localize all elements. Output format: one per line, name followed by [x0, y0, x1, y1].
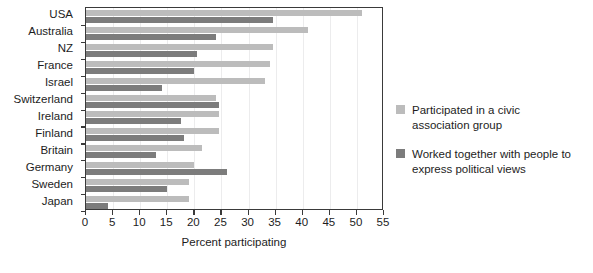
- legend-entry: Worked together with people to express p…: [396, 147, 586, 177]
- legend-label: Worked together with people to express p…: [412, 147, 580, 177]
- legend-swatch-icon: [396, 149, 405, 158]
- bar: [86, 68, 194, 74]
- legend-label: Participated in a civic association grou…: [412, 103, 580, 133]
- gridline: [276, 8, 277, 209]
- x-axis-tick: [302, 210, 303, 215]
- gridline: [357, 8, 358, 209]
- x-axis-tick: [329, 210, 330, 215]
- gridline: [303, 8, 304, 209]
- x-axis-tick-label: 10: [133, 216, 146, 228]
- legend-swatch-icon: [396, 105, 405, 114]
- bar: [86, 85, 162, 91]
- x-axis-tick: [220, 210, 221, 215]
- bar: [86, 203, 108, 209]
- x-axis-tick-label: 5: [109, 216, 115, 228]
- y-axis-label-nz: NZ: [58, 43, 73, 55]
- x-axis-tick-label: 15: [160, 216, 173, 228]
- x-axis-tick-label: 20: [187, 216, 200, 228]
- x-axis-tick-label: 35: [268, 216, 281, 228]
- x-axis-tick-label: 45: [322, 216, 335, 228]
- bar: [86, 135, 184, 141]
- y-axis-label-switzerland: Switzerland: [14, 94, 73, 106]
- y-axis-label-britain: Britain: [40, 145, 73, 157]
- gridline: [221, 8, 222, 209]
- x-axis-tick: [248, 210, 249, 215]
- bar: [86, 27, 308, 33]
- bar: [86, 118, 181, 124]
- bar: [86, 17, 273, 23]
- bar: [86, 61, 270, 67]
- y-axis-label-japan: Japan: [42, 196, 73, 208]
- plot-area: [85, 7, 383, 210]
- x-axis-title: Percent participating: [85, 236, 383, 248]
- y-axis-label-finland: Finland: [35, 128, 73, 140]
- x-axis-tick: [356, 210, 357, 215]
- x-axis-tick-label: 55: [377, 216, 390, 228]
- x-axis-tick: [112, 210, 113, 215]
- y-axis-category-labels: USAAustraliaNZFranceIsraelSwitzerlandIre…: [0, 7, 78, 210]
- bar: [86, 95, 216, 101]
- bar: [86, 128, 219, 134]
- x-axis-tick-label: 50: [350, 216, 363, 228]
- bar: [86, 179, 189, 185]
- legend-entry: Participated in a civic association grou…: [396, 103, 586, 133]
- y-axis-label-israel: Israel: [45, 77, 73, 89]
- y-axis-label-france: France: [37, 60, 73, 72]
- x-axis-tick-label: 30: [241, 216, 254, 228]
- y-axis-label-sweden: Sweden: [31, 179, 73, 191]
- plot-inner: [86, 8, 382, 209]
- x-axis-tick-label: 0: [82, 216, 88, 228]
- y-axis-label-usa: USA: [49, 9, 73, 21]
- gridline: [249, 8, 250, 209]
- bar: [86, 162, 194, 168]
- bar: [86, 186, 167, 192]
- chart-legend: Participated in a civic association grou…: [396, 103, 586, 191]
- y-axis-label-ireland: Ireland: [38, 111, 73, 123]
- x-axis-tick-label: 25: [214, 216, 227, 228]
- bar: [86, 169, 227, 175]
- bar: [86, 145, 202, 151]
- bar: [86, 111, 219, 117]
- bar: [86, 34, 216, 40]
- bar-chart: USAAustraliaNZFranceIsraelSwitzerlandIre…: [0, 0, 593, 273]
- bar: [86, 102, 219, 108]
- bar: [86, 152, 156, 158]
- x-axis-tick: [275, 210, 276, 215]
- bar: [86, 44, 273, 50]
- bar: [86, 196, 189, 202]
- x-axis-tick: [85, 210, 86, 215]
- x-axis-tick: [193, 210, 194, 215]
- x-axis-tick-label: 40: [295, 216, 308, 228]
- gridline: [330, 8, 331, 209]
- y-axis-label-australia: Australia: [28, 26, 73, 38]
- x-axis-tick-labels: 0510152025303540455055: [85, 216, 383, 232]
- x-axis-tick: [139, 210, 140, 215]
- bar: [86, 78, 265, 84]
- bar: [86, 10, 362, 16]
- x-axis-tick: [383, 210, 384, 215]
- bar: [86, 51, 197, 57]
- x-axis-tick: [166, 210, 167, 215]
- y-axis-label-germany: Germany: [26, 162, 73, 174]
